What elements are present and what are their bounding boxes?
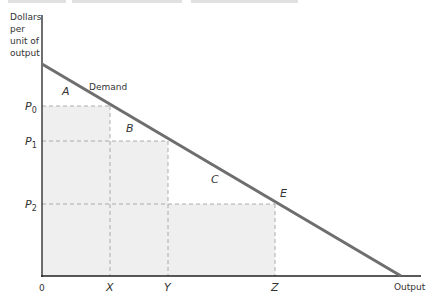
x-axis-label: Output xyxy=(394,282,426,292)
origin-label: 0 xyxy=(39,283,45,293)
area-c-label: C xyxy=(211,173,219,186)
x-tick-x: X xyxy=(105,281,114,294)
shaded-area-x xyxy=(42,106,110,276)
point-e-label: E xyxy=(280,187,287,200)
area-a-label: A xyxy=(61,85,70,98)
p2-label: P2 xyxy=(25,198,37,213)
demand-chart: Dollars per unit of output P0 P1 P2 0 X … xyxy=(0,0,437,307)
p1-label: P1 xyxy=(25,135,37,150)
y-axis-label-2: per xyxy=(10,24,25,34)
demand-label: Demand xyxy=(89,82,127,92)
y-axis-label-3: unit of xyxy=(10,36,40,46)
x-tick-z: Z xyxy=(270,281,279,294)
p0-label: P0 xyxy=(25,100,37,115)
shaded-area-y xyxy=(110,141,168,276)
y-axis-label-4: output xyxy=(10,48,40,58)
shaded-area-z xyxy=(168,204,275,276)
area-b-label: B xyxy=(126,122,134,135)
x-tick-y: Y xyxy=(164,281,172,294)
y-axis-label-1: Dollars xyxy=(10,12,42,22)
